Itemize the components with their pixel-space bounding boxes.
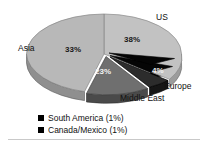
legend-swatch-icon xyxy=(38,115,44,121)
slice-label-europe: Europe xyxy=(164,82,191,91)
pie-svg xyxy=(0,0,208,122)
slice-label-middle-east: Middle East xyxy=(120,94,164,103)
slice-value-europe: 4% xyxy=(152,67,164,75)
slice-label-us: US xyxy=(156,13,168,22)
chart-legend: South America (1%) Canada/Mexico (1%) xyxy=(38,112,168,136)
pie-chart: US Asia Europe Middle East 38% 33% 23% 4… xyxy=(0,0,208,146)
slice-label-asia: Asia xyxy=(18,44,35,53)
slice-value-us: 38% xyxy=(124,36,140,44)
legend-item-south-america: South America (1%) xyxy=(38,112,168,123)
legend-label-canada-mexico: Canada/Mexico (1%) xyxy=(48,125,127,135)
legend-swatch-icon xyxy=(38,127,44,133)
legend-label-south-america: South America (1%) xyxy=(48,113,124,123)
pie-plot-area: US Asia Europe Middle East 38% 33% 23% 4… xyxy=(0,0,208,122)
footer-divider xyxy=(8,139,200,140)
legend-item-canada-mexico: Canada/Mexico (1%) xyxy=(38,124,168,135)
slice-value-asia: 33% xyxy=(65,46,81,54)
slice-value-middle-east: 23% xyxy=(95,68,111,76)
